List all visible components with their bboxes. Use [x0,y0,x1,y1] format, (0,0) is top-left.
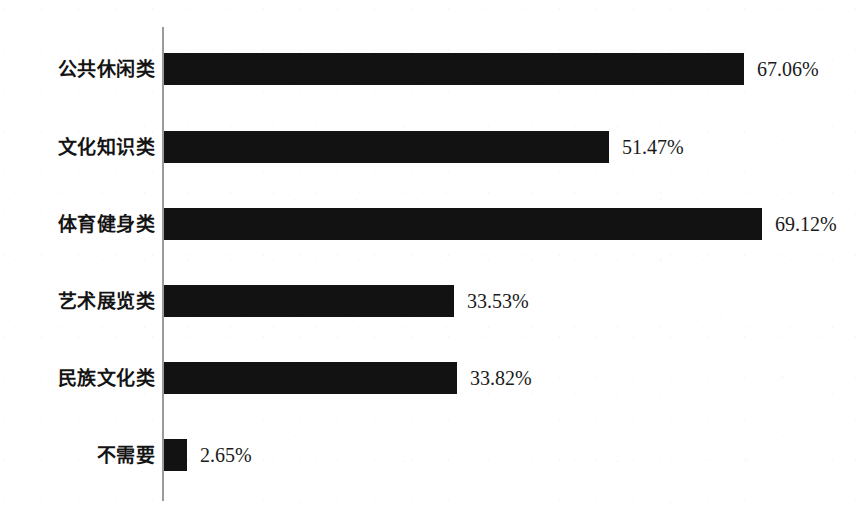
category-label: 公共休闲类 [58,53,156,85]
category-label: 文化知识类 [58,131,156,163]
bar-row: 文化知识类 51.47% [0,131,868,163]
bar-chart: 公共休闲类 67.06% 文化知识类 51.47% 体育健身类 69.12% 艺… [0,0,868,528]
category-label: 艺术展览类 [58,285,156,317]
bar [164,439,187,471]
value-label: 2.65% [200,439,252,471]
category-label: 体育健身类 [58,208,156,240]
category-label: 民族文化类 [58,362,156,394]
bar-row: 体育健身类 69.12% [0,208,868,240]
bar [164,208,762,240]
category-label: 不需要 [97,439,156,471]
value-label: 33.53% [467,285,529,317]
category-axis-line [162,27,164,501]
value-label: 33.82% [470,362,532,394]
bar-row: 艺术展览类 33.53% [0,285,868,317]
bar [164,285,454,317]
bar [164,131,609,163]
value-label: 69.12% [775,208,837,240]
value-label: 51.47% [622,131,684,163]
bar [164,362,457,394]
bar-row: 公共休闲类 67.06% [0,53,868,85]
bar-row: 民族文化类 33.82% [0,362,868,394]
bar [164,53,744,85]
bar-row: 不需要 2.65% [0,439,868,471]
value-label: 67.06% [757,53,819,85]
